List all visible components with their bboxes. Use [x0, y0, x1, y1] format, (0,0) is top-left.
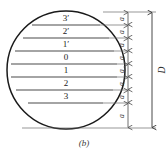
diagram-canvas — [0, 0, 168, 157]
figure-caption: (b) — [0, 138, 168, 148]
segment-spacing-label: a — [118, 91, 126, 103]
segment-spacing-label: a — [118, 13, 126, 25]
level-label: 2 — [54, 79, 78, 88]
segment-spacing-label: a — [118, 39, 126, 51]
level-label: 1 — [54, 66, 78, 75]
figure-container: 3′2′1′0123 aaaaaaaa D (b) — [0, 0, 168, 157]
level-label: 0 — [54, 53, 78, 62]
segment-spacing-label: a — [118, 78, 126, 90]
level-label: 3 — [54, 92, 78, 101]
level-label: 1′ — [54, 40, 78, 49]
level-label: 3′ — [54, 14, 78, 23]
diameter-label: D — [157, 63, 167, 77]
segment-spacing-label: a — [118, 65, 126, 77]
level-label: 2′ — [54, 27, 78, 36]
segment-spacing-label: a — [118, 52, 126, 64]
extension-lines — [22, 12, 156, 128]
segment-spacing-label: a — [118, 110, 126, 122]
segment-spacing-label: a — [118, 26, 126, 38]
